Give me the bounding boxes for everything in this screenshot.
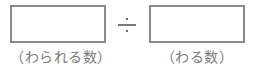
divide-icon-bar — [118, 24, 136, 26]
divide-icon-dot-bottom — [126, 30, 128, 32]
divide-icon-dot-top — [126, 18, 128, 20]
divisor-label: （わる数） — [149, 48, 245, 66]
divisor-input-box[interactable] — [149, 5, 245, 43]
dividend-label: （わられる数） — [10, 48, 106, 66]
dividend-input-box[interactable] — [10, 5, 106, 43]
divide-icon — [118, 16, 136, 34]
